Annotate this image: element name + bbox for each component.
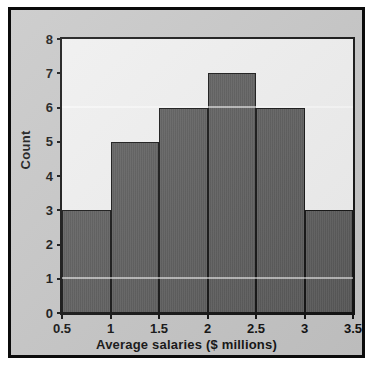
x-axis-tick-mark <box>61 313 63 319</box>
plot-area <box>60 37 355 315</box>
y-axis-tick-label: 4 <box>46 170 53 183</box>
histogram-bar <box>62 210 111 313</box>
x-axis-ticks: 0.511.522.533.5 <box>62 313 353 339</box>
y-axis-tick-label: 5 <box>46 135 53 148</box>
x-axis-tick-mark <box>158 313 160 319</box>
histogram-bar <box>256 108 305 314</box>
x-axis-tick-mark <box>110 313 112 319</box>
x-axis-tick-label: 1 <box>107 322 114 335</box>
x-axis-tick-mark <box>304 313 306 319</box>
x-axis-title: Average salaries ($ millions) <box>11 337 362 352</box>
y-axis-ticks: 012345678 <box>11 37 62 315</box>
x-axis-tick-label: 3.5 <box>344 322 362 335</box>
x-axis-tick-mark <box>255 313 257 319</box>
histogram-bar <box>159 108 208 314</box>
y-axis-tick-label: 6 <box>46 101 53 114</box>
x-axis-tick-label: 3 <box>301 322 308 335</box>
histogram-bar <box>208 73 257 313</box>
histogram-bar <box>111 142 160 313</box>
y-axis-tick-label: 8 <box>46 33 53 46</box>
x-axis-tick-label: 0.5 <box>53 322 71 335</box>
histogram-bar <box>305 210 354 313</box>
y-axis-tick-label: 7 <box>46 67 53 80</box>
y-axis-tick-label: 2 <box>46 238 53 251</box>
x-axis-tick-label: 2 <box>204 322 211 335</box>
x-axis-tick-label: 1.5 <box>150 322 168 335</box>
x-axis-tick-mark <box>352 313 354 319</box>
y-axis-tick-label: 0 <box>46 307 53 320</box>
plot-inner <box>62 39 353 313</box>
x-axis-tick-label: 2.5 <box>247 322 265 335</box>
y-axis-tick-label: 1 <box>46 272 53 285</box>
x-axis-tick-mark <box>207 313 209 319</box>
figure-frame: Count 012345678 0.511.522.533.5 Average … <box>8 7 365 358</box>
y-axis-tick-label: 3 <box>46 204 53 217</box>
